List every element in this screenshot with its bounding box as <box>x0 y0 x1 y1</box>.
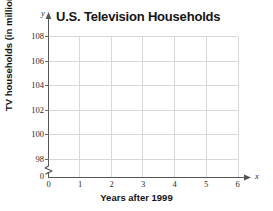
y-axis-title: TV households (in millions) <box>3 0 14 129</box>
y-axis-letter: y <box>41 8 45 18</box>
x-axis-title: Years after 1999 <box>0 192 273 203</box>
x-tick-text: 3 <box>134 179 152 189</box>
x-tick-text: 5 <box>197 179 215 189</box>
y-axis-title-container: TV households (in millions) <box>3 0 17 129</box>
x-tick-label-3: 3 <box>134 179 152 190</box>
x-tick-text: 4 <box>166 179 184 189</box>
x-tick-text: 6 <box>229 179 247 189</box>
x-tick-text: 2 <box>103 179 121 189</box>
y-tick-text: 108 <box>24 31 44 41</box>
x-tick-label-5: 5 <box>197 179 215 190</box>
y-tick-text: 102 <box>24 105 44 115</box>
y-tick-label-106: 106 <box>24 56 44 66</box>
y-tick-label-104: 104 <box>24 80 44 90</box>
x-tick-text: 0 <box>40 179 58 189</box>
x-tick-text: 1 <box>71 179 89 189</box>
chart-container: U.S. Television Households <box>0 0 273 211</box>
x-tick-label-2: 2 <box>103 179 121 190</box>
x-tick-label-4: 4 <box>166 179 184 190</box>
x-tick-label-0: 0 <box>40 179 58 190</box>
vertical-gridlines <box>80 37 239 178</box>
y-tick-label-108: 108 <box>24 31 44 41</box>
y-axis-break-symbol <box>45 166 52 174</box>
y-tick-text: 100 <box>24 129 44 139</box>
y-tick-label-102: 102 <box>24 105 44 115</box>
y-tick-text: 106 <box>24 56 44 66</box>
y-tick-text: 104 <box>24 80 44 90</box>
y-tick-label-98: 98 <box>24 154 44 164</box>
x-tick-label-1: 1 <box>71 179 89 190</box>
x-tick-label-6: 6 <box>229 179 247 190</box>
y-tick-label-100: 100 <box>24 129 44 139</box>
x-axis-letter: x <box>255 171 259 181</box>
y-tick-text: 98 <box>24 154 44 164</box>
